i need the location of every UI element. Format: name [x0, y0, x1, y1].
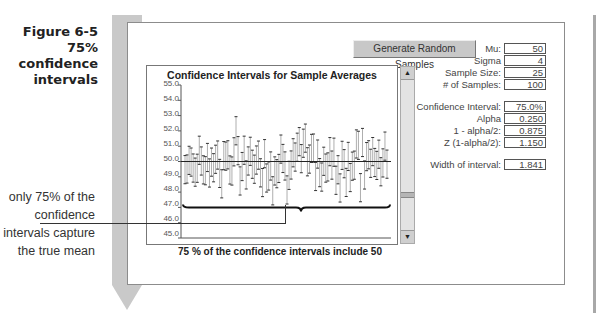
confidence-input[interactable]: 75.0%: [504, 101, 546, 112]
sigma-input[interactable]: 4: [504, 55, 546, 66]
param-one-minus-half-alpha: 1 - alpha/2: 0.875: [504, 125, 546, 137]
param-label: Sample Size:: [445, 67, 501, 78]
caption-line: intervals: [0, 72, 98, 88]
param-confidence: Confidence Interval: 75.0%: [504, 101, 546, 113]
note-line: the true mean: [0, 242, 95, 260]
param-label: 1 - alpha/2:: [453, 125, 501, 136]
param-z: Z (1-alpha/2): 1.150: [504, 137, 546, 149]
generate-samples-button[interactable]: Generate Random Samples: [353, 40, 476, 58]
note-line: confidence: [0, 206, 95, 224]
note-line: intervals capture: [0, 224, 95, 242]
caption-line: Figure 6-5: [0, 24, 98, 40]
param-num-samples: # of Samples: 100: [504, 79, 546, 91]
pointer-line: [40, 223, 286, 224]
sample-size-input[interactable]: 25: [504, 67, 546, 78]
pointer-line: [285, 205, 286, 224]
width-value: 1.841: [504, 159, 546, 170]
scroll-down-icon[interactable]: ▼: [401, 230, 414, 243]
plot-area: [147, 66, 397, 244]
one-minus-half-alpha-value: 0.875: [504, 125, 546, 136]
chart-summary: 75 % of the confidence intervals include…: [178, 246, 382, 257]
scroll-thumb[interactable]: [401, 192, 414, 198]
caption-line: 75%: [0, 40, 98, 56]
param-alpha: Alpha 0.250: [504, 113, 546, 125]
note-line: only 75% of the: [0, 188, 95, 206]
param-width: Width of interval: 1.841: [504, 159, 546, 171]
scroll-up-icon[interactable]: ▲: [401, 67, 414, 80]
param-label: Confidence Interval:: [417, 101, 502, 112]
param-label: Width of interval:: [430, 159, 501, 170]
figure-caption: Figure 6-5 75% confidence intervals: [0, 24, 98, 88]
param-label: Alpha: [477, 113, 501, 124]
param-sample-size: Sample Size: 25: [504, 67, 546, 79]
confidence-interval-chart: Confidence Intervals for Sample Averages…: [146, 65, 398, 245]
alpha-value: 0.250: [504, 113, 546, 124]
mu-input[interactable]: 50: [504, 43, 546, 54]
strip-arrow-icon: [112, 285, 142, 310]
param-mu: Mu: 50: [504, 43, 546, 55]
figure-note: only 75% of the confidence intervals cap…: [0, 188, 95, 260]
chart-scrollbar[interactable]: ▲ ▼: [400, 66, 415, 244]
param-label: Z (1-alpha/2):: [444, 137, 501, 148]
num-samples-input[interactable]: 100: [504, 79, 546, 90]
param-sigma: Sigma 4: [504, 55, 546, 67]
z-value: 1.150: [504, 137, 546, 148]
param-label: Sigma: [474, 55, 501, 66]
param-label: # of Samples:: [443, 79, 501, 90]
param-label: Mu:: [485, 43, 501, 54]
caption-line: confidence: [0, 56, 98, 72]
